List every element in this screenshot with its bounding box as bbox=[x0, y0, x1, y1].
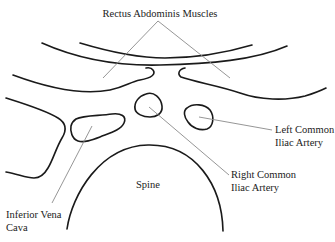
body-wall-contour bbox=[6, 98, 65, 178]
label-inferior-vena-cava-line2: Cava bbox=[6, 222, 28, 233]
rectus-inner-arc bbox=[80, 43, 252, 58]
rectus-leader-right bbox=[158, 21, 230, 78]
label-right-common-iliac-line1: Right Common bbox=[231, 169, 297, 180]
rectus-leader-left bbox=[103, 21, 158, 78]
label-left-common-iliac-line2: Iliac Artery bbox=[275, 137, 324, 148]
label-left-common-iliac-line1: Left Common bbox=[275, 124, 335, 135]
label-inferior-vena-cava-line1: Inferior Vena bbox=[6, 209, 62, 220]
rectus-abdominis-muscles bbox=[13, 43, 326, 99]
left-common-iliac-artery-shape bbox=[184, 105, 212, 130]
rectus-right-lower-border bbox=[179, 68, 326, 99]
label-rectus-abdominis: Rectus Abdominis Muscles bbox=[103, 8, 218, 19]
ivc-leader bbox=[52, 126, 92, 203]
right-common-iliac-artery-shape bbox=[135, 93, 162, 117]
label-right-common-iliac-line2: Iliac Artery bbox=[231, 182, 280, 193]
anatomy-diagram: Rectus Abdominis Muscles Left Common Ili… bbox=[0, 0, 335, 242]
label-spine: Spine bbox=[136, 179, 160, 190]
right-iliac-leader bbox=[149, 107, 229, 175]
inferior-vena-cava-shape bbox=[71, 114, 125, 142]
rectus-left-lower-border bbox=[13, 68, 154, 92]
